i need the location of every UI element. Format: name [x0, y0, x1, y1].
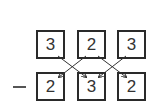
cross-arrows	[0, 0, 162, 108]
